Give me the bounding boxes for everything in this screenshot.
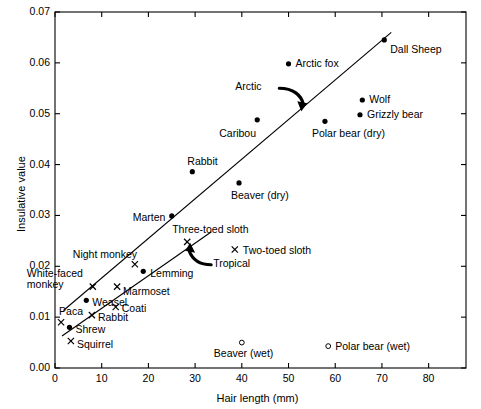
data-point-label: Shrew (75, 324, 105, 335)
data-point-label: Polar bear (dry) (312, 128, 385, 139)
data-point (58, 319, 64, 325)
data-point-label: Dall Sheep (390, 44, 441, 55)
data-point (322, 119, 327, 124)
data-point-label: Paca (59, 306, 83, 317)
data-point-label: Marten (133, 212, 166, 223)
data-point (326, 344, 331, 349)
data-point (255, 117, 260, 122)
y-tick-label: 0.06 (16, 57, 50, 68)
data-point-label: Beaver (wet) (214, 348, 274, 359)
data-point-label: Three-toed sloth (172, 224, 248, 235)
data-point-label: White-faced monkey (27, 268, 83, 291)
data-point-label: Night monkey (73, 249, 137, 260)
data-point (236, 180, 241, 185)
data-point (89, 312, 95, 318)
x-tick-label: 70 (369, 373, 395, 384)
data-point (114, 284, 120, 290)
data-point (357, 112, 362, 117)
data-point-label: Two-toed sloth (243, 245, 311, 256)
annotation-arrows (185, 88, 307, 264)
data-point-label: Squirrel (77, 339, 113, 350)
trendlines (62, 32, 391, 336)
x-tick-label: 10 (89, 373, 115, 384)
data-point (67, 325, 72, 330)
data-point (141, 269, 146, 274)
data-point-label: Rabbit (98, 312, 128, 323)
data-point (132, 261, 138, 267)
scatter-plot-figure: 010203040506070800.000.010.020.030.040.0… (0, 0, 481, 409)
group-annotation-label: Arctic (235, 81, 261, 92)
x-tick-label: 0 (42, 373, 68, 384)
x-tick-label: 30 (182, 373, 208, 384)
group-annotation-label: Tropical (213, 258, 250, 269)
data-point (169, 213, 174, 218)
data-point-label: Arctic fox (296, 58, 339, 69)
data-point (382, 37, 387, 42)
data-point (190, 169, 195, 174)
x-tick-label: 80 (416, 373, 442, 384)
data-point-label: Grizzly bear (367, 109, 423, 120)
data-point (286, 61, 291, 66)
x-tick-label: 20 (135, 373, 161, 384)
data-point-label: Caribou (219, 128, 256, 139)
x-axis-title: Hair length (mm) (217, 393, 299, 405)
data-point-label: Rabbit (187, 156, 217, 167)
data-point-label: Wolf (369, 94, 390, 105)
y-axis-title: Insulative value (16, 156, 28, 232)
y-tick-label: 0.00 (16, 362, 50, 373)
data-point-label: Polar bear (wet) (335, 341, 410, 352)
x-tick-label: 40 (229, 373, 255, 384)
data-point (239, 340, 244, 345)
x-tick-label: 60 (322, 373, 348, 384)
data-point-label: Beaver (dry) (231, 190, 289, 201)
y-tick-label: 0.07 (16, 6, 50, 17)
data-point (360, 97, 365, 102)
data-point-label: Marmoset (123, 286, 170, 297)
data-point-label: Lemming (150, 268, 193, 279)
data-point (68, 338, 74, 344)
arctic-trendline (63, 32, 391, 310)
y-tick-label: 0.05 (16, 108, 50, 119)
x-tick-label: 50 (276, 373, 302, 384)
data-point (84, 298, 89, 303)
data-point (232, 246, 238, 252)
y-tick-label: 0.01 (16, 311, 50, 322)
data-point (90, 284, 96, 290)
